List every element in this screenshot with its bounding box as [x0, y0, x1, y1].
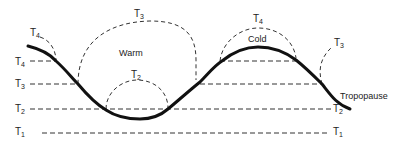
tropopause-diagram: T4 T3 T2 T1 T4 T3 T2 T4 T3 T2 T1 Warm Co… [0, 0, 399, 144]
diagram-canvas [0, 0, 399, 144]
tropopause-curve [28, 46, 350, 119]
label-cold-region: Cold [248, 35, 267, 44]
surface-t3-right [320, 47, 332, 84]
label-t4-left: T4 [15, 57, 25, 68]
label-t4-arc-left: T4 [30, 28, 40, 39]
label-t3-arc-right: T3 [334, 38, 344, 49]
label-t2-left: T2 [15, 104, 25, 115]
label-t4-arc-cold: T4 [253, 14, 263, 25]
label-warm-region: Warm [119, 49, 143, 58]
label-t2-right: T2 [333, 104, 343, 115]
label-t1-left: T1 [15, 127, 25, 138]
label-t2-arc-warm: T2 [131, 70, 141, 81]
label-tropopause: Tropopause [340, 92, 388, 101]
label-t3-left: T3 [15, 79, 25, 90]
label-t3-arc-warm: T3 [134, 9, 144, 20]
label-t1-right: T1 [333, 127, 343, 138]
surface-t2-warm [106, 80, 168, 109]
